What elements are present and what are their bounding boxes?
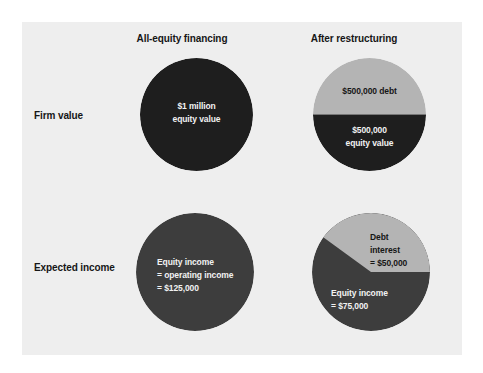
column-header-all-equity-financing: All-equity financing <box>122 33 242 44</box>
pie-label-line: = $125,000 <box>157 282 233 295</box>
pie-chart-expected-income-after-restructuring: Debt interest = $50,000 Equity income = … <box>312 213 430 331</box>
column-header-after-restructuring: After restructuring <box>294 33 414 44</box>
pie-label-debt-interest: Debt interest = $50,000 <box>370 231 407 270</box>
pie-label-line: equity value <box>313 137 426 150</box>
pie-label-line: Equity income <box>157 256 233 269</box>
pie-label-line: = operating income <box>157 269 233 282</box>
row-label-expected-income: Expected income <box>34 262 115 273</box>
pie-label-line: $500,000 <box>313 124 426 137</box>
pie-label-line: Debt <box>370 231 407 244</box>
pie-label-equity-value: $500,000 equity value <box>313 124 426 150</box>
pie-label-line: Equity income <box>331 287 388 300</box>
pie-label-line: = $50,000 <box>370 257 407 270</box>
pie-label-line: equity value <box>140 113 253 126</box>
figure-panel: All-equity financing After restructuring… <box>22 22 462 355</box>
pie-label-equity-income-all-equity: Equity income = operating income = $125,… <box>157 256 233 295</box>
pie-chart-expected-income-all-equity: Equity income = operating income = $125,… <box>136 213 254 331</box>
pie-label-line: = $75,000 <box>331 300 388 313</box>
pie-label-line: $500,000 debt <box>313 85 426 98</box>
pie-chart-firm-value-after-restructuring: $500,000 debt $500,000 equity value <box>313 58 426 171</box>
pie-label-line: $1 million <box>140 100 253 113</box>
row-label-firm-value: Firm value <box>34 110 83 121</box>
pie-chart-firm-value-all-equity: $1 million equity value <box>140 58 253 171</box>
pie-label-line: interest <box>370 244 407 257</box>
pie-label-debt: $500,000 debt <box>313 85 426 98</box>
pie-label-equity-income: Equity income = $75,000 <box>331 287 388 313</box>
pie-label-firm-value-all-equity: $1 million equity value <box>140 100 253 126</box>
